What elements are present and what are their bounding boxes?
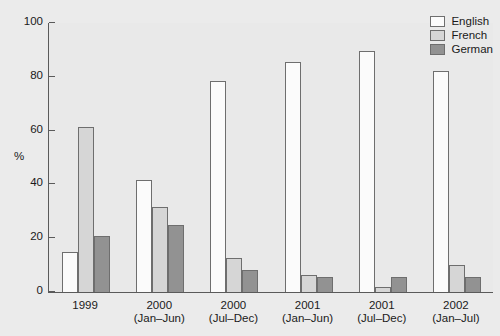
- bar-french: [78, 127, 94, 292]
- bar-chart: % 0 20 40 60 80 100 19992000(Jan–Jun: [0, 0, 500, 336]
- legend-swatch-icon: [430, 16, 445, 27]
- x-axis-label-year: 2000: [146, 299, 172, 311]
- y-tick: 80: [49, 76, 55, 77]
- y-axis-title: %: [14, 150, 24, 162]
- y-tick: 100: [49, 22, 55, 23]
- bar-german: [168, 225, 184, 292]
- bar-french: [226, 258, 242, 292]
- bar-french: [375, 287, 391, 292]
- bar-french: [152, 207, 168, 292]
- y-tick: 40: [49, 183, 55, 184]
- bar-group: [285, 23, 333, 292]
- bar-german: [242, 270, 258, 292]
- y-tick: 0: [49, 291, 55, 292]
- y-tick-label: 100: [24, 15, 43, 27]
- bar-english: [62, 252, 78, 292]
- legend-label: English: [451, 15, 489, 27]
- bar-german: [317, 277, 333, 292]
- x-axis-label-year: 1999: [72, 299, 98, 311]
- bar-german: [391, 277, 407, 292]
- x-axis-label-year: 2002: [443, 299, 469, 311]
- x-axis-label-year: 2000: [221, 299, 247, 311]
- y-tick-label: 0: [37, 284, 43, 296]
- legend-swatch-icon: [430, 30, 445, 41]
- y-tick-label: 80: [30, 69, 43, 81]
- legend-item-french: French: [430, 29, 493, 41]
- legend: English French German: [430, 15, 493, 55]
- y-tick: 60: [49, 130, 55, 131]
- legend-item-english: English: [430, 15, 493, 27]
- y-tick-label: 60: [30, 123, 43, 135]
- x-axis-label: 2002(Jan–Jul): [411, 299, 500, 325]
- y-tick-label: 20: [30, 230, 43, 242]
- bar-group: [433, 23, 481, 292]
- bar-group: [359, 23, 407, 292]
- legend-item-german: German: [430, 43, 493, 55]
- bar-german: [465, 277, 481, 292]
- bar-group: [210, 23, 258, 292]
- legend-swatch-icon: [430, 44, 445, 55]
- x-axis-label-year: 2001: [295, 299, 321, 311]
- bar-french: [449, 265, 465, 292]
- bar-group: [62, 23, 110, 292]
- x-axis-label-year: 2001: [369, 299, 395, 311]
- x-axis-label-period: (Jan–Jul): [411, 312, 500, 325]
- legend-label: German: [451, 43, 493, 55]
- bar-group: [136, 23, 184, 292]
- bar-english: [359, 51, 375, 292]
- bar-french: [301, 275, 317, 292]
- bar-english: [136, 180, 152, 292]
- y-tick-label: 40: [30, 176, 43, 188]
- bar-english: [433, 71, 449, 292]
- bar-english: [285, 62, 301, 292]
- plot-area: 0 20 40 60 80 100: [48, 23, 493, 293]
- legend-label: French: [451, 29, 487, 41]
- bar-english: [210, 81, 226, 292]
- bar-german: [94, 236, 110, 292]
- y-tick: 20: [49, 237, 55, 238]
